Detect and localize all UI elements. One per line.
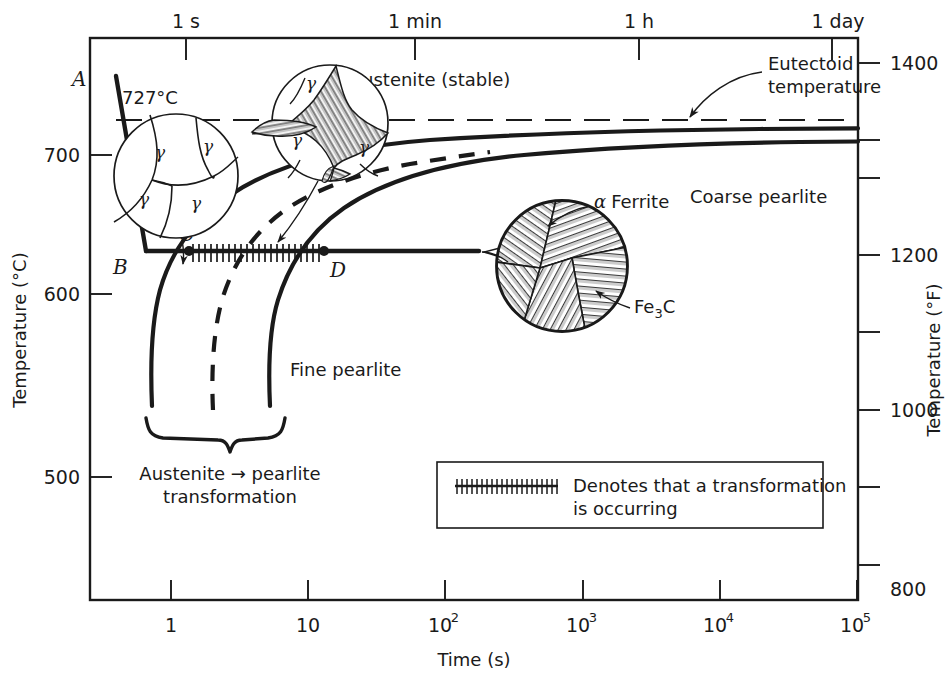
label-coarse-pearlite: Coarse pearlite xyxy=(690,186,827,207)
top-tick-label-1day: 1 day xyxy=(811,10,864,32)
y-tick-label-700c: 700 xyxy=(44,144,80,166)
label-point-A: A xyxy=(70,67,86,91)
label-alpha-symbol: αFerrite xyxy=(594,191,669,212)
gamma-label-b1: γ xyxy=(306,73,317,93)
x-tick-label-1e3: 10 xyxy=(566,614,590,636)
gamma-label-b3: γ xyxy=(359,137,370,157)
x-tick-exp-3: 3 xyxy=(589,610,597,625)
gamma-label-a1: γ xyxy=(155,142,166,162)
x-tick-label-1e2: 10 xyxy=(428,614,452,636)
gamma-label-a3: γ xyxy=(139,189,150,209)
label-point-D: D xyxy=(329,258,346,282)
y-tick-label-500c: 500 xyxy=(44,466,80,488)
x-tick-label-1e4: 10 xyxy=(703,614,727,636)
label-eutectoid-line2: temperature xyxy=(768,76,881,97)
y-axis-title-celsius: Temperature (°C) xyxy=(9,252,30,408)
x-tick-label-10: 10 xyxy=(296,614,320,636)
marker-point-D xyxy=(319,246,329,256)
label-point-B: B xyxy=(112,255,128,279)
x-tick-exp-4: 4 xyxy=(726,610,734,625)
eutectoid-temp-value-label: 727°C xyxy=(122,87,178,108)
brace-caption-line2: transformation xyxy=(163,486,297,507)
y-tick-label-800f: 800 xyxy=(890,578,926,600)
diagram-canvas: 1 s 1 min 1 h 1 day 1 10 10 2 10 3 10 4 … xyxy=(0,0,952,681)
y-tick-label-600c: 600 xyxy=(44,283,80,305)
legend-text-line2: is occurring xyxy=(573,498,678,519)
x-axis-title: Time (s) xyxy=(436,649,510,670)
x-tick-exp-5: 5 xyxy=(863,610,871,625)
y-tick-label-1200f: 1200 xyxy=(890,244,938,266)
top-tick-label-1min: 1 min xyxy=(388,10,442,32)
gamma-label-a4: γ xyxy=(191,193,202,213)
gamma-label-a2: γ xyxy=(203,136,214,156)
legend-box: Denotes that a transformation is occurri… xyxy=(437,462,846,528)
top-tick-label-1h: 1 h xyxy=(624,10,654,32)
top-tick-label-1s: 1 s xyxy=(172,10,200,32)
label-fine-pearlite: Fine pearlite xyxy=(290,359,401,380)
legend-text-line1: Denotes that a transformation xyxy=(573,475,846,496)
x-tick-label-1: 1 xyxy=(165,614,177,636)
marker-point-C xyxy=(184,246,194,256)
y-axis-title-fahrenheit: Temperature (°F) xyxy=(923,283,944,437)
x-tick-label-1e5: 10 xyxy=(840,614,864,636)
brace-caption-line1: Austenite → pearlite xyxy=(139,463,320,484)
gamma-label-b2: γ xyxy=(292,130,303,150)
x-tick-exp-2: 2 xyxy=(451,610,459,625)
ttt-diagram-figure: 1 s 1 min 1 h 1 day 1 10 10 2 10 3 10 4 … xyxy=(0,0,952,681)
label-eutectoid-line1: Eutectoid xyxy=(768,53,853,74)
y-tick-label-1400f: 1400 xyxy=(890,52,938,74)
